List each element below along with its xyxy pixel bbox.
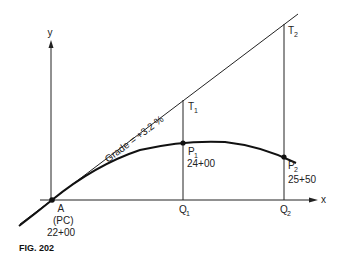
figure-caption: FIG. 202 [19,243,54,253]
point-p2 [281,154,286,159]
label-a-pc: (PC) [53,215,74,226]
label-q2-sub: 2 [287,210,291,217]
label-p2-sub: 2 [294,166,298,173]
vertical-curve-diagram: y x Grade = +3.2 % A (PC) 22+00 T 1 T 2 … [0,0,340,259]
x-axis-arrow-icon [309,198,318,203]
point-p1 [180,140,185,145]
label-p1-station: 24+00 [187,158,216,169]
y-axis-arrow-icon [49,40,54,48]
y-axis-label: y [48,27,53,38]
grade-label: Grade = +3.2 % [103,113,166,164]
label-a: A [58,203,65,214]
label-t2-sub: 2 [294,31,298,38]
x-axis-label: x [321,194,326,205]
label-a-station: 22+00 [47,227,76,238]
label-t1-sub: 1 [194,107,198,114]
label-q1-sub: 1 [186,210,190,217]
point-a [49,197,55,203]
label-p2-station: 25+50 [288,174,317,185]
